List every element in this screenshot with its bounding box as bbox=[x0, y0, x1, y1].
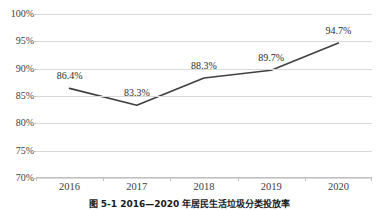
data-point-label: 94.7% bbox=[325, 26, 351, 36]
y-tick-mark bbox=[33, 41, 36, 42]
x-axis-tick-label: 2017 bbox=[126, 180, 147, 193]
y-tick-mark bbox=[33, 96, 36, 97]
y-axis-tick-label: 85% bbox=[0, 91, 34, 101]
y-axis-labels: 100%95%90%85%80%75%70% bbox=[0, 14, 34, 178]
x-axis-tick-label: 2019 bbox=[261, 180, 282, 193]
gridline bbox=[36, 96, 372, 97]
y-axis-tick-label: 100% bbox=[0, 9, 34, 19]
y-axis-tick-label: 80% bbox=[0, 118, 34, 128]
x-axis-labels: 20162017201820192020 bbox=[36, 180, 372, 194]
figure-container: 100%95%90%85%80%75%70% 86.4%83.3%88.3%89… bbox=[0, 0, 379, 211]
y-axis-tick-label: 75% bbox=[0, 146, 34, 156]
data-point-label: 89.7% bbox=[258, 53, 284, 63]
gridline bbox=[36, 123, 372, 124]
data-point-label: 86.4% bbox=[57, 71, 83, 81]
y-tick-mark bbox=[33, 123, 36, 124]
plot-area: 86.4%83.3%88.3%89.7%94.7% bbox=[36, 14, 372, 178]
y-tick-mark bbox=[33, 151, 36, 152]
y-axis-tick-label: 90% bbox=[0, 64, 34, 74]
line-chart: 100%95%90%85%80%75%70% 86.4%83.3%88.3%89… bbox=[0, 0, 379, 196]
data-point-label: 88.3% bbox=[191, 61, 217, 71]
y-axis-tick-label: 95% bbox=[0, 36, 34, 46]
y-axis-tick-label: 70% bbox=[0, 173, 34, 183]
gridline bbox=[36, 151, 372, 152]
figure-caption: 图 5-1 2016—2020 年居民生活垃圾分类投放率 bbox=[0, 199, 379, 210]
gridline bbox=[36, 41, 372, 42]
x-axis-tick-label: 2016 bbox=[59, 180, 80, 193]
y-tick-mark bbox=[33, 14, 36, 15]
gridline bbox=[36, 14, 372, 15]
y-tick-mark bbox=[33, 69, 36, 70]
data-point-label: 83.3% bbox=[124, 88, 150, 98]
x-axis-tick-label: 2020 bbox=[328, 180, 349, 193]
gridline bbox=[36, 178, 372, 179]
x-axis-tick-label: 2018 bbox=[194, 180, 215, 193]
